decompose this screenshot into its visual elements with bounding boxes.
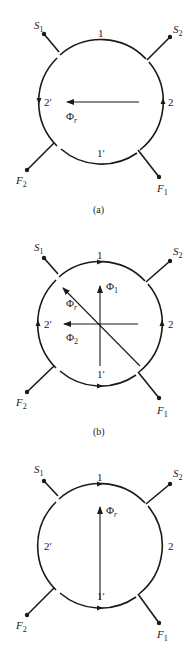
label-f1: F1: [156, 182, 168, 197]
label-s2: S2: [173, 23, 183, 38]
terminal-s2: [147, 35, 172, 60]
current-arrow-bottom: [97, 606, 103, 611]
label-s1: S1: [34, 241, 44, 256]
label-1: 1: [97, 249, 103, 261]
label-2-prime: 2′: [44, 96, 52, 108]
caption-b: (b): [93, 426, 105, 438]
label-s2: S2: [173, 245, 183, 260]
label-f1: F1: [156, 628, 168, 643]
terminal-s1: [42, 32, 59, 52]
label-2: 2: [168, 318, 174, 330]
label-1-prime: 1′: [97, 590, 105, 602]
terminal-f1: [138, 150, 161, 179]
terminal-s2: [146, 259, 172, 282]
label-phi-r: Φr: [66, 297, 78, 312]
panel-c: [25, 479, 172, 625]
label-2: 2: [168, 96, 174, 108]
label-f2: F2: [15, 396, 27, 411]
current-arrow-left: [37, 98, 42, 104]
terminal-f1: [138, 594, 161, 625]
terminal-s1: [42, 479, 58, 496]
label-1: 1: [97, 471, 103, 483]
label-phi-2: Φ2: [66, 331, 78, 346]
terminal-f2: [25, 143, 54, 172]
label-1-prime: 1′: [97, 147, 105, 159]
caption-a: (a): [93, 204, 104, 216]
label-f2: F2: [15, 619, 27, 634]
stator-flux-diagram: 1 1′ 2′ 2 S1 S2 F2 F1 Φr (a): [0, 0, 191, 648]
label-phi-1: Φ1: [106, 280, 118, 295]
label-s1: S1: [34, 463, 44, 478]
label-f2: F2: [15, 174, 27, 189]
label-s2: S2: [173, 467, 183, 482]
label-f1: F1: [156, 404, 168, 419]
label-1: 1: [98, 27, 104, 39]
current-arrow-bottom: [97, 384, 103, 389]
label-s1: S1: [34, 19, 44, 34]
label-phi-r: Φr: [106, 504, 118, 519]
current-arrow-right: [160, 320, 165, 326]
label-phi-r: Φr: [66, 110, 78, 125]
label-2-prime: 2′: [44, 318, 52, 330]
current-arrow-left: [36, 320, 41, 326]
terminal-s1: [42, 256, 58, 274]
current-arrow-right: [161, 98, 166, 104]
label-2-prime: 2′: [44, 540, 52, 552]
terminal-f2: [25, 588, 54, 617]
flux-vector-r: [63, 288, 140, 366]
terminal-f1: [138, 372, 161, 400]
terminal-f2: [25, 366, 54, 394]
label-2: 2: [168, 540, 174, 552]
terminal-s2: [146, 482, 172, 504]
label-1-prime: 1′: [97, 368, 105, 380]
